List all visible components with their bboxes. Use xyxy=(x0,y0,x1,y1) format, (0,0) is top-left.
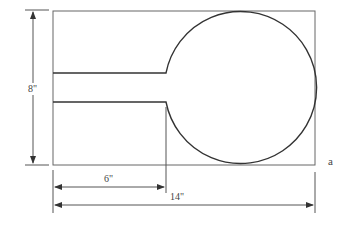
drawing: 8" 6" 14" a xyxy=(0,0,344,227)
keyhole-outline xyxy=(53,11,317,163)
figure-label: a xyxy=(328,155,333,167)
dim-label-stem: 6" xyxy=(104,173,113,184)
dim-label-height: 8" xyxy=(28,83,37,94)
outer-rectangle xyxy=(53,11,315,165)
dim-label-total: 14" xyxy=(170,191,184,202)
